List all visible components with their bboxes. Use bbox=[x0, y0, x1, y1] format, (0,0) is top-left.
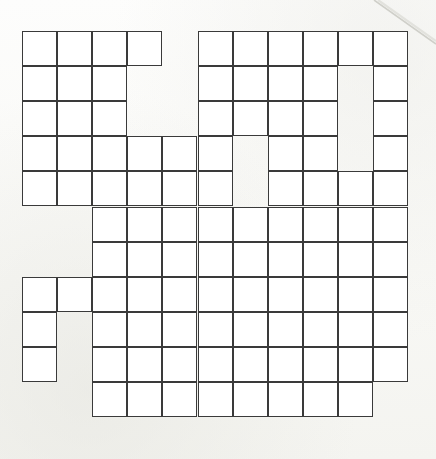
grid-cell-r11-c10[interactable] bbox=[338, 382, 373, 417]
grid-cell-r11-c5[interactable] bbox=[162, 382, 197, 417]
grid-cell-r11-c8[interactable] bbox=[268, 382, 303, 417]
grid-cell-r4-c9[interactable] bbox=[303, 136, 338, 171]
crossword-grid[interactable] bbox=[22, 31, 408, 417]
grid-cell-r3-c1[interactable] bbox=[22, 101, 57, 136]
grid-cell-r9-c9[interactable] bbox=[303, 312, 338, 347]
grid-cell-r11-c3[interactable] bbox=[92, 382, 127, 417]
grid-cell-r8-c6[interactable] bbox=[198, 277, 233, 312]
grid-cell-r4-c6[interactable] bbox=[198, 136, 233, 171]
grid-cell-r4-c2[interactable] bbox=[57, 136, 92, 171]
grid-cell-r9-c6[interactable] bbox=[198, 312, 233, 347]
grid-cell-r2-c7[interactable] bbox=[233, 66, 268, 101]
grid-cell-r10-c8[interactable] bbox=[268, 347, 303, 382]
grid-cell-r5-c1[interactable] bbox=[22, 171, 57, 206]
grid-cell-r11-c7[interactable] bbox=[233, 382, 268, 417]
grid-cell-r2-c1[interactable] bbox=[22, 66, 57, 101]
grid-cell-r4-c11[interactable] bbox=[373, 136, 408, 171]
grid-cell-r3-c2[interactable] bbox=[57, 101, 92, 136]
grid-cell-r9-c10[interactable] bbox=[338, 312, 373, 347]
grid-cell-r4-c5[interactable] bbox=[162, 136, 197, 171]
grid-cell-r1-c3[interactable] bbox=[92, 31, 127, 66]
grid-cell-r8-c5[interactable] bbox=[162, 277, 197, 312]
grid-cell-r6-c6[interactable] bbox=[198, 207, 233, 242]
grid-cell-r2-c8[interactable] bbox=[268, 66, 303, 101]
grid-cell-r7-c9[interactable] bbox=[303, 242, 338, 277]
grid-cell-r11-c9[interactable] bbox=[303, 382, 338, 417]
grid-cell-r1-c1[interactable] bbox=[22, 31, 57, 66]
grid-cell-r6-c4[interactable] bbox=[127, 207, 162, 242]
grid-cell-r7-c6[interactable] bbox=[198, 242, 233, 277]
grid-cell-r11-c6[interactable] bbox=[198, 382, 233, 417]
grid-cell-r10-c11[interactable] bbox=[373, 347, 408, 382]
grid-cell-r8-c11[interactable] bbox=[373, 277, 408, 312]
grid-cell-r10-c7[interactable] bbox=[233, 347, 268, 382]
grid-cell-r10-c3[interactable] bbox=[92, 347, 127, 382]
grid-cell-r5-c8[interactable] bbox=[268, 171, 303, 206]
grid-cell-r5-c3[interactable] bbox=[92, 171, 127, 206]
grid-cell-r9-c8[interactable] bbox=[268, 312, 303, 347]
grid-cell-r9-c3[interactable] bbox=[92, 312, 127, 347]
grid-cell-r7-c10[interactable] bbox=[338, 242, 373, 277]
grid-cell-r10-c1[interactable] bbox=[22, 347, 57, 382]
grid-cell-r4-c3[interactable] bbox=[92, 136, 127, 171]
grid-cell-r2-c3[interactable] bbox=[92, 66, 127, 101]
grid-cell-r7-c3[interactable] bbox=[92, 242, 127, 277]
grid-cell-r5-c10[interactable] bbox=[338, 171, 373, 206]
grid-cell-r2-c2[interactable] bbox=[57, 66, 92, 101]
grid-cell-r3-c3[interactable] bbox=[92, 101, 127, 136]
grid-cell-r1-c4[interactable] bbox=[127, 31, 162, 66]
grid-cell-r9-c7[interactable] bbox=[233, 312, 268, 347]
grid-cell-r3-c7[interactable] bbox=[233, 101, 268, 136]
grid-cell-r10-c5[interactable] bbox=[162, 347, 197, 382]
grid-cell-r10-c6[interactable] bbox=[198, 347, 233, 382]
grid-cell-r8-c1[interactable] bbox=[22, 277, 57, 312]
grid-cell-r1-c11[interactable] bbox=[373, 31, 408, 66]
grid-cell-r8-c8[interactable] bbox=[268, 277, 303, 312]
grid-cell-r8-c3[interactable] bbox=[92, 277, 127, 312]
grid-cell-r3-c11[interactable] bbox=[373, 101, 408, 136]
grid-cell-r3-c8[interactable] bbox=[268, 101, 303, 136]
grid-cell-r6-c8[interactable] bbox=[268, 207, 303, 242]
grid-cell-r10-c4[interactable] bbox=[127, 347, 162, 382]
grid-cell-r8-c2[interactable] bbox=[57, 277, 92, 312]
grid-cell-r1-c7[interactable] bbox=[233, 31, 268, 66]
grid-cell-r9-c1[interactable] bbox=[22, 312, 57, 347]
grid-cell-r6-c3[interactable] bbox=[92, 207, 127, 242]
grid-cell-r7-c5[interactable] bbox=[162, 242, 197, 277]
grid-cell-r5-c5[interactable] bbox=[162, 171, 197, 206]
grid-cell-r8-c4[interactable] bbox=[127, 277, 162, 312]
grid-cell-r7-c8[interactable] bbox=[268, 242, 303, 277]
grid-cell-r9-c11[interactable] bbox=[373, 312, 408, 347]
grid-cell-r1-c9[interactable] bbox=[303, 31, 338, 66]
grid-cell-r10-c9[interactable] bbox=[303, 347, 338, 382]
grid-cell-r3-c9[interactable] bbox=[303, 101, 338, 136]
grid-cell-r5-c4[interactable] bbox=[127, 171, 162, 206]
grid-cell-r4-c8[interactable] bbox=[268, 136, 303, 171]
grid-cell-r2-c6[interactable] bbox=[198, 66, 233, 101]
grid-cell-r6-c10[interactable] bbox=[338, 207, 373, 242]
grid-cell-r8-c10[interactable] bbox=[338, 277, 373, 312]
grid-cell-r6-c5[interactable] bbox=[162, 207, 197, 242]
grid-cell-r9-c4[interactable] bbox=[127, 312, 162, 347]
grid-cell-r6-c9[interactable] bbox=[303, 207, 338, 242]
grid-cell-r2-c9[interactable] bbox=[303, 66, 338, 101]
grid-cell-r7-c4[interactable] bbox=[127, 242, 162, 277]
grid-cell-r11-c4[interactable] bbox=[127, 382, 162, 417]
grid-cell-r8-c7[interactable] bbox=[233, 277, 268, 312]
grid-cell-r7-c7[interactable] bbox=[233, 242, 268, 277]
grid-cell-r3-c6[interactable] bbox=[198, 101, 233, 136]
grid-cell-r9-c5[interactable] bbox=[162, 312, 197, 347]
grid-cell-r5-c6[interactable] bbox=[198, 171, 233, 206]
grid-cell-r1-c8[interactable] bbox=[268, 31, 303, 66]
grid-cell-r5-c11[interactable] bbox=[373, 171, 408, 206]
grid-cell-r6-c11[interactable] bbox=[373, 207, 408, 242]
grid-cell-r10-c10[interactable] bbox=[338, 347, 373, 382]
grid-cell-r5-c9[interactable] bbox=[303, 171, 338, 206]
grid-cell-r1-c10[interactable] bbox=[338, 31, 373, 66]
grid-cell-r1-c6[interactable] bbox=[198, 31, 233, 66]
grid-cell-r1-c2[interactable] bbox=[57, 31, 92, 66]
grid-cell-r5-c2[interactable] bbox=[57, 171, 92, 206]
grid-cell-r8-c9[interactable] bbox=[303, 277, 338, 312]
grid-cell-r2-c11[interactable] bbox=[373, 66, 408, 101]
grid-cell-r7-c11[interactable] bbox=[373, 242, 408, 277]
